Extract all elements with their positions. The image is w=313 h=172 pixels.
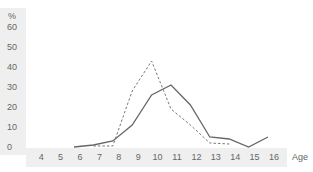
x-tick-label: 11 — [172, 152, 181, 162]
y-tick-label: 50 — [7, 42, 17, 52]
x-tick-label: 8 — [116, 152, 121, 162]
y-tick-label: 60 — [7, 22, 17, 32]
x-tick-label: 5 — [58, 152, 63, 162]
x-tick-label: 9 — [136, 152, 141, 162]
x-tick-label: 4 — [39, 152, 44, 162]
series-lines — [74, 61, 268, 147]
x-axis-title: Age — [292, 152, 308, 162]
x-tick-label: 6 — [77, 152, 82, 162]
x-tick-label: 13 — [211, 152, 221, 162]
x-tick-label: 15 — [250, 152, 260, 162]
line-chart: 0102030405060 % 45678910111213141516 Age — [0, 0, 313, 172]
y-tick-label: 40 — [7, 62, 17, 72]
series-line-solid — [74, 85, 268, 147]
x-tick-label: 16 — [269, 152, 279, 162]
x-tick-label: 7 — [97, 152, 102, 162]
y-tick-label: 10 — [7, 122, 17, 132]
y-tick-label: 30 — [7, 82, 17, 92]
y-tick-label: 0 — [7, 142, 12, 152]
y-axis-unit: % — [8, 11, 16, 21]
series-line-dashed — [93, 61, 229, 146]
x-tick-label: 10 — [153, 152, 163, 162]
x-tick-label: 14 — [230, 152, 240, 162]
y-tick-label: 20 — [7, 102, 17, 112]
x-tick-label: 12 — [191, 152, 201, 162]
